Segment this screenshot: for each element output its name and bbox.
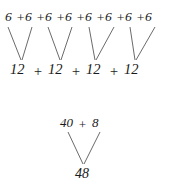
branch-5-left-line — [68, 132, 83, 164]
lower-top-row-term-0: 40 — [60, 116, 73, 129]
top-row-term-12: 6 — [125, 10, 132, 24]
top-row-plus-11: + — [116, 11, 125, 25]
lower-bottom-row-term-0: 48 — [75, 167, 89, 181]
mid-row-term-0: 12 — [10, 62, 25, 77]
branch-1-left-line — [8, 27, 21, 60]
top-row-plus-5: + — [56, 11, 65, 25]
mid-row-plus-3: + — [71, 64, 81, 79]
mid-row-term-6: 12 — [124, 62, 139, 77]
top-row-term-14: 6 — [145, 10, 152, 24]
lower-top-row-plus-1: + — [78, 118, 87, 131]
top-row-term-4: 6 — [45, 10, 52, 24]
lower-top-row-term-2: 8 — [92, 116, 99, 129]
mid-row-plus-1: + — [33, 64, 43, 79]
top-row-plus-1: + — [16, 11, 25, 25]
branch-3-right-line — [96, 27, 114, 60]
top-row-term-6: 6 — [65, 10, 72, 24]
top-row-term-10: 6 — [105, 10, 112, 24]
mid-row-term-2: 12 — [48, 62, 63, 77]
top-row-term-0: 6 — [5, 10, 12, 24]
branch-3-left-line — [89, 27, 95, 60]
branch-5-right-line — [84, 132, 100, 164]
top-row-plus-7: + — [76, 11, 85, 25]
top-row-plus-3: + — [36, 11, 45, 25]
top-row-term-2: 6 — [25, 10, 32, 24]
branch-connectors-group — [0, 0, 172, 194]
diagram-canvas: 6+6+6+6+6+6+6+6 12+12+12+12 40+8 48 — [0, 0, 172, 194]
branch-1-right-line — [22, 27, 32, 60]
top-row-term-8: 6 — [85, 10, 92, 24]
branch-4-right-line — [136, 27, 155, 60]
top-row-plus-9: + — [96, 11, 105, 25]
mid-row-term-4: 12 — [86, 62, 101, 77]
branch-4-left-line — [130, 27, 135, 60]
branch-2-left-line — [48, 27, 60, 60]
branch-2-right-line — [61, 27, 72, 60]
top-row-plus-13: + — [136, 11, 145, 25]
mid-row-plus-5: + — [109, 64, 119, 79]
